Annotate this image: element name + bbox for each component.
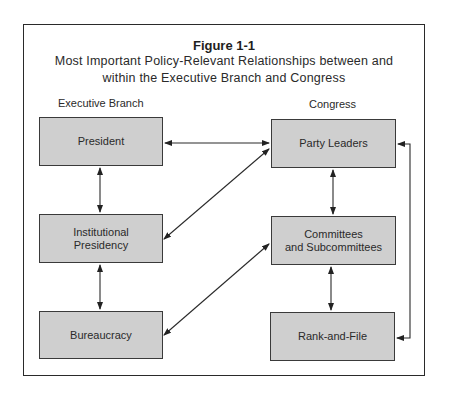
arrow-party-leaders-rank-and-file bbox=[397, 144, 410, 338]
arrow-institutional-party-leaders bbox=[164, 149, 269, 239]
arrow-bureaucracy-committees bbox=[164, 244, 269, 335]
relationship-arrows bbox=[0, 0, 449, 396]
